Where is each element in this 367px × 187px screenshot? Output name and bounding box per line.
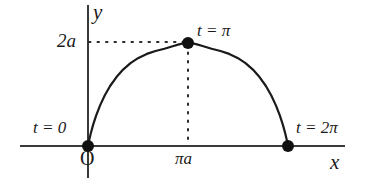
y-tick-label-2a: 2a [57, 31, 76, 50]
cycloid-diagram: y x O 2a πa t = 0 t = π t = 2π [0, 0, 367, 187]
point-label-t-pi: t = π [197, 22, 230, 39]
origin-label: O [80, 148, 94, 168]
point-label-t-2pi: t = 2π [296, 119, 338, 136]
y-axis-label: y [93, 2, 102, 23]
x-axis-label: x [330, 152, 339, 173]
point-t-pi [182, 37, 194, 49]
x-tick-label-pia: πa [175, 150, 192, 167]
point-label-t0: t = 0 [33, 119, 66, 136]
point-t-2pi [282, 140, 294, 152]
